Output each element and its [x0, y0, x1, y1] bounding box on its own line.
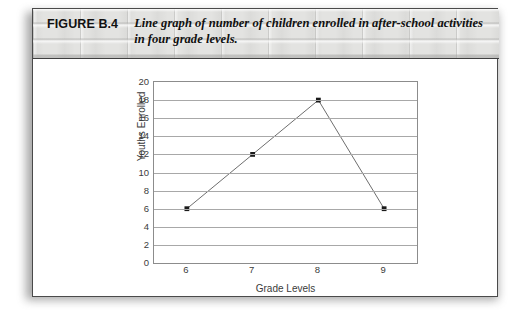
y-tick-label: 8: [144, 184, 149, 195]
y-tick-label: 16: [138, 112, 149, 123]
y-tick-label: 12: [138, 148, 149, 159]
figure-number-label: FIGURE B.4: [47, 16, 118, 31]
gridline: [154, 154, 417, 155]
y-tick-label: 4: [144, 220, 149, 231]
gridline: [154, 191, 417, 192]
x-axis-title: Grade Levels: [153, 283, 418, 294]
gridline: [154, 100, 417, 101]
gridline: [154, 209, 417, 210]
y-tick-label: 20: [138, 76, 149, 87]
x-tick-label: 7: [249, 264, 254, 275]
y-tick-label: 2: [144, 238, 149, 249]
x-tick-label: 8: [315, 264, 320, 275]
figure-caption-text: Line graph of number of children enrolle…: [134, 16, 489, 47]
x-tick-label: 9: [380, 264, 385, 275]
figure-page: FIGURE B.4 Line graph of number of child…: [32, 8, 498, 297]
figure-screenshot: FIGURE B.4 Line graph of number of child…: [0, 0, 522, 320]
y-tick-label: 6: [144, 202, 149, 213]
caption-row: FIGURE B.4 Line graph of number of child…: [33, 9, 499, 58]
y-tick-label: 14: [138, 130, 149, 141]
y-tick-label: 0: [144, 257, 149, 268]
x-axis-tick-labels: 6789: [153, 264, 418, 280]
figure-caption-band: FIGURE B.4 Line graph of number of child…: [33, 9, 499, 59]
y-tick-label: 18: [138, 94, 149, 105]
chart-container: Youths Enrolled 20181614121086420 6789 G…: [33, 59, 497, 296]
gridline: [154, 245, 417, 246]
gridline: [154, 227, 417, 228]
gridline: [154, 118, 417, 119]
x-tick-label: 6: [183, 264, 188, 275]
y-tick-label: 10: [138, 166, 149, 177]
y-axis-tick-labels: 20181614121086420: [125, 81, 149, 262]
gridline: [154, 136, 417, 137]
plot-area: [153, 81, 418, 264]
gridline: [154, 173, 417, 174]
